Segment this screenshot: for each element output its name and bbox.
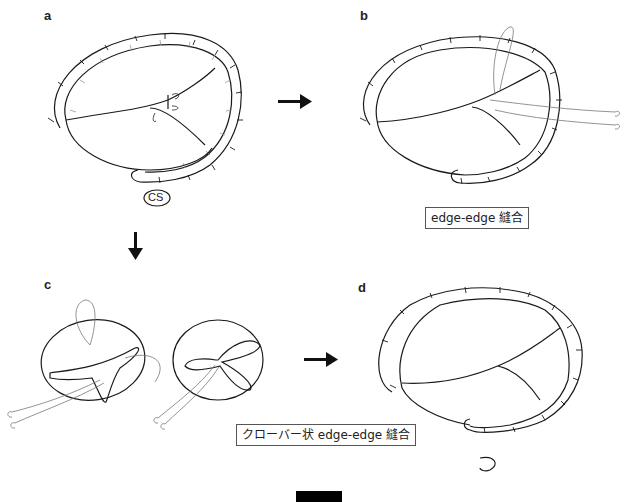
arrow-right-icon: [304, 352, 338, 367]
arrow-right-icon: [278, 94, 312, 109]
arrow-down-icon: [128, 232, 143, 260]
caption-edge-edge-suture: edge-edge 縫合: [425, 207, 529, 229]
panel-label-a: a: [44, 8, 51, 23]
panel-c-drawing: [8, 300, 263, 429]
scale-bar: [296, 491, 342, 502]
panel-label-d: d: [358, 280, 366, 295]
panel-label-c: c: [44, 277, 51, 292]
panel-a-drawing: [48, 33, 243, 206]
panel-label-b: b: [360, 8, 368, 23]
panel-b-drawing: [360, 27, 620, 184]
cs-label: CS: [148, 191, 163, 203]
caption-clover-edge-edge-suture: クローバー状 edge-edge 縫合: [236, 424, 416, 446]
